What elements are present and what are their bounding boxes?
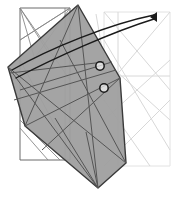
node-marker-lower	[100, 84, 108, 92]
figure-root	[0, 0, 178, 203]
node-marker-upper	[96, 62, 104, 70]
figure-canvas	[0, 0, 178, 203]
